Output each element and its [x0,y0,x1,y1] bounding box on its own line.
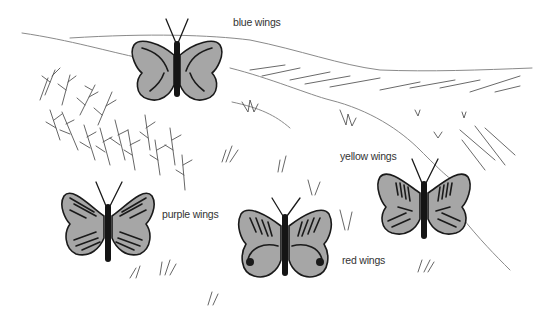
label-red-wings: red wings [342,254,385,266]
butterfly-purple [62,182,154,262]
butterfly-red [239,198,332,277]
butterfly-landscape-scene: blue wings purple wings red wings yellow… [0,0,559,329]
butterfly-yellow [378,159,470,239]
label-purple-wings: purple wings [162,208,219,220]
butterfly-blue [132,19,222,100]
label-blue-wings: blue wings [233,16,281,28]
landscape-drawing [0,0,559,329]
label-yellow-wings: yellow wings [340,150,397,162]
